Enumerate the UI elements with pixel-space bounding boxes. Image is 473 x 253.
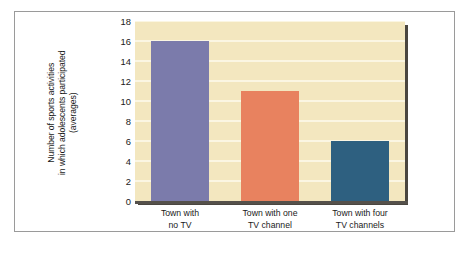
bar (241, 91, 299, 201)
chart-figure-frame: Number of sports activities in which ado… (14, 11, 455, 232)
y-tick-label: 0 (103, 196, 131, 207)
y-tick-label: 18 (103, 16, 131, 27)
x-axis-baseline (135, 201, 408, 204)
y-tick-label: 16 (103, 36, 131, 47)
y-axis-title-line-2: in which adolescents participated (57, 18, 68, 208)
category-label-line: no TV (135, 220, 225, 232)
bars-group (135, 21, 405, 201)
y-tick-label: 12 (103, 76, 131, 87)
category-label-line: TV channel (225, 220, 315, 232)
y-axis-title-line-3: (averages) (69, 18, 80, 208)
category-label-line: Town with one (225, 208, 315, 220)
y-tick-label: 10 (103, 96, 131, 107)
category-label-line: TV channels (315, 220, 405, 232)
category-label: Town with fourTV channels (315, 208, 405, 231)
category-label-line: Town with (135, 208, 225, 220)
category-label-line: Town with four (315, 208, 405, 220)
y-tick-label: 8 (103, 116, 131, 127)
y-tick-label: 4 (103, 156, 131, 167)
y-axis-title-line-1: Number of sports activities (46, 18, 57, 208)
bar (331, 141, 389, 201)
y-axis-tick-labels: 024681012141618 (103, 21, 131, 201)
y-tick-label: 2 (103, 176, 131, 187)
category-label: Town withno TV (135, 208, 225, 231)
y-tick-label: 6 (103, 136, 131, 147)
category-label: Town with oneTV channel (225, 208, 315, 231)
y-tick-label: 14 (103, 56, 131, 67)
x-axis-category-labels: Town withno TVTown with oneTV channelTow… (135, 208, 405, 240)
plot-area (135, 21, 405, 201)
bar (151, 41, 209, 201)
y-axis-title: Number of sports activities in which ado… (46, 18, 80, 208)
